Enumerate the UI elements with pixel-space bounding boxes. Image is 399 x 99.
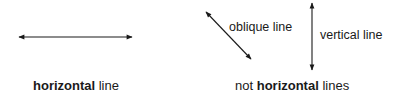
caption-bold-word: horizontal xyxy=(33,78,95,93)
caption-rest: lines xyxy=(319,78,349,93)
horizontal-caption: horizontal line xyxy=(33,79,119,92)
caption-rest: line xyxy=(95,78,119,93)
caption-prefix: not xyxy=(235,78,257,93)
oblique-line-label: oblique line xyxy=(229,21,292,34)
caption-bold-word: horizontal xyxy=(257,78,319,93)
vertical-line-label: vertical line xyxy=(320,29,383,42)
not-horizontal-caption: not horizontal lines xyxy=(235,79,349,92)
